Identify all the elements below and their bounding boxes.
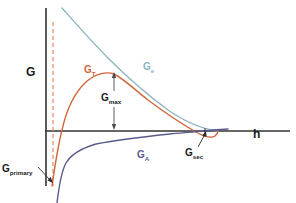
curve-label-ge: Ge xyxy=(143,62,154,74)
curve-label-ga: GA xyxy=(137,150,149,162)
figure-container: G h GT Ge GA Gmax Gsec Gprimary xyxy=(0,0,296,203)
annotation-gprimary-sub: primary xyxy=(10,169,33,176)
curve-label-gt-sub: T xyxy=(92,70,96,77)
curve-label-ga-base: G xyxy=(137,149,145,160)
annotation-gprimary-base: G xyxy=(2,163,10,174)
x-axis-label: h xyxy=(253,128,260,140)
annotation-gsec-base: G xyxy=(185,147,193,158)
annotation-gmax: Gmax xyxy=(101,93,121,105)
curve-label-ga-sub: A xyxy=(145,155,149,162)
y-axis-label: G xyxy=(26,66,35,78)
curve-label-ge-sub: e xyxy=(151,67,154,74)
annotation-gmax-base: G xyxy=(101,92,109,103)
annotation-gprimary: Gprimary xyxy=(2,164,32,176)
annotation-gsec: Gsec xyxy=(185,148,203,160)
curve-label-gt-base: G xyxy=(84,64,92,75)
annotation-gsec-sub: sec xyxy=(193,153,203,160)
curve-ga xyxy=(57,129,228,203)
annotation-gmax-sub: max xyxy=(109,98,121,105)
gmax-arrow-down xyxy=(112,107,116,130)
curve-label-gt: GT xyxy=(84,65,96,77)
plot-canvas xyxy=(0,0,296,203)
curve-gt xyxy=(52,73,218,186)
curve-label-ge-base: G xyxy=(143,61,151,72)
